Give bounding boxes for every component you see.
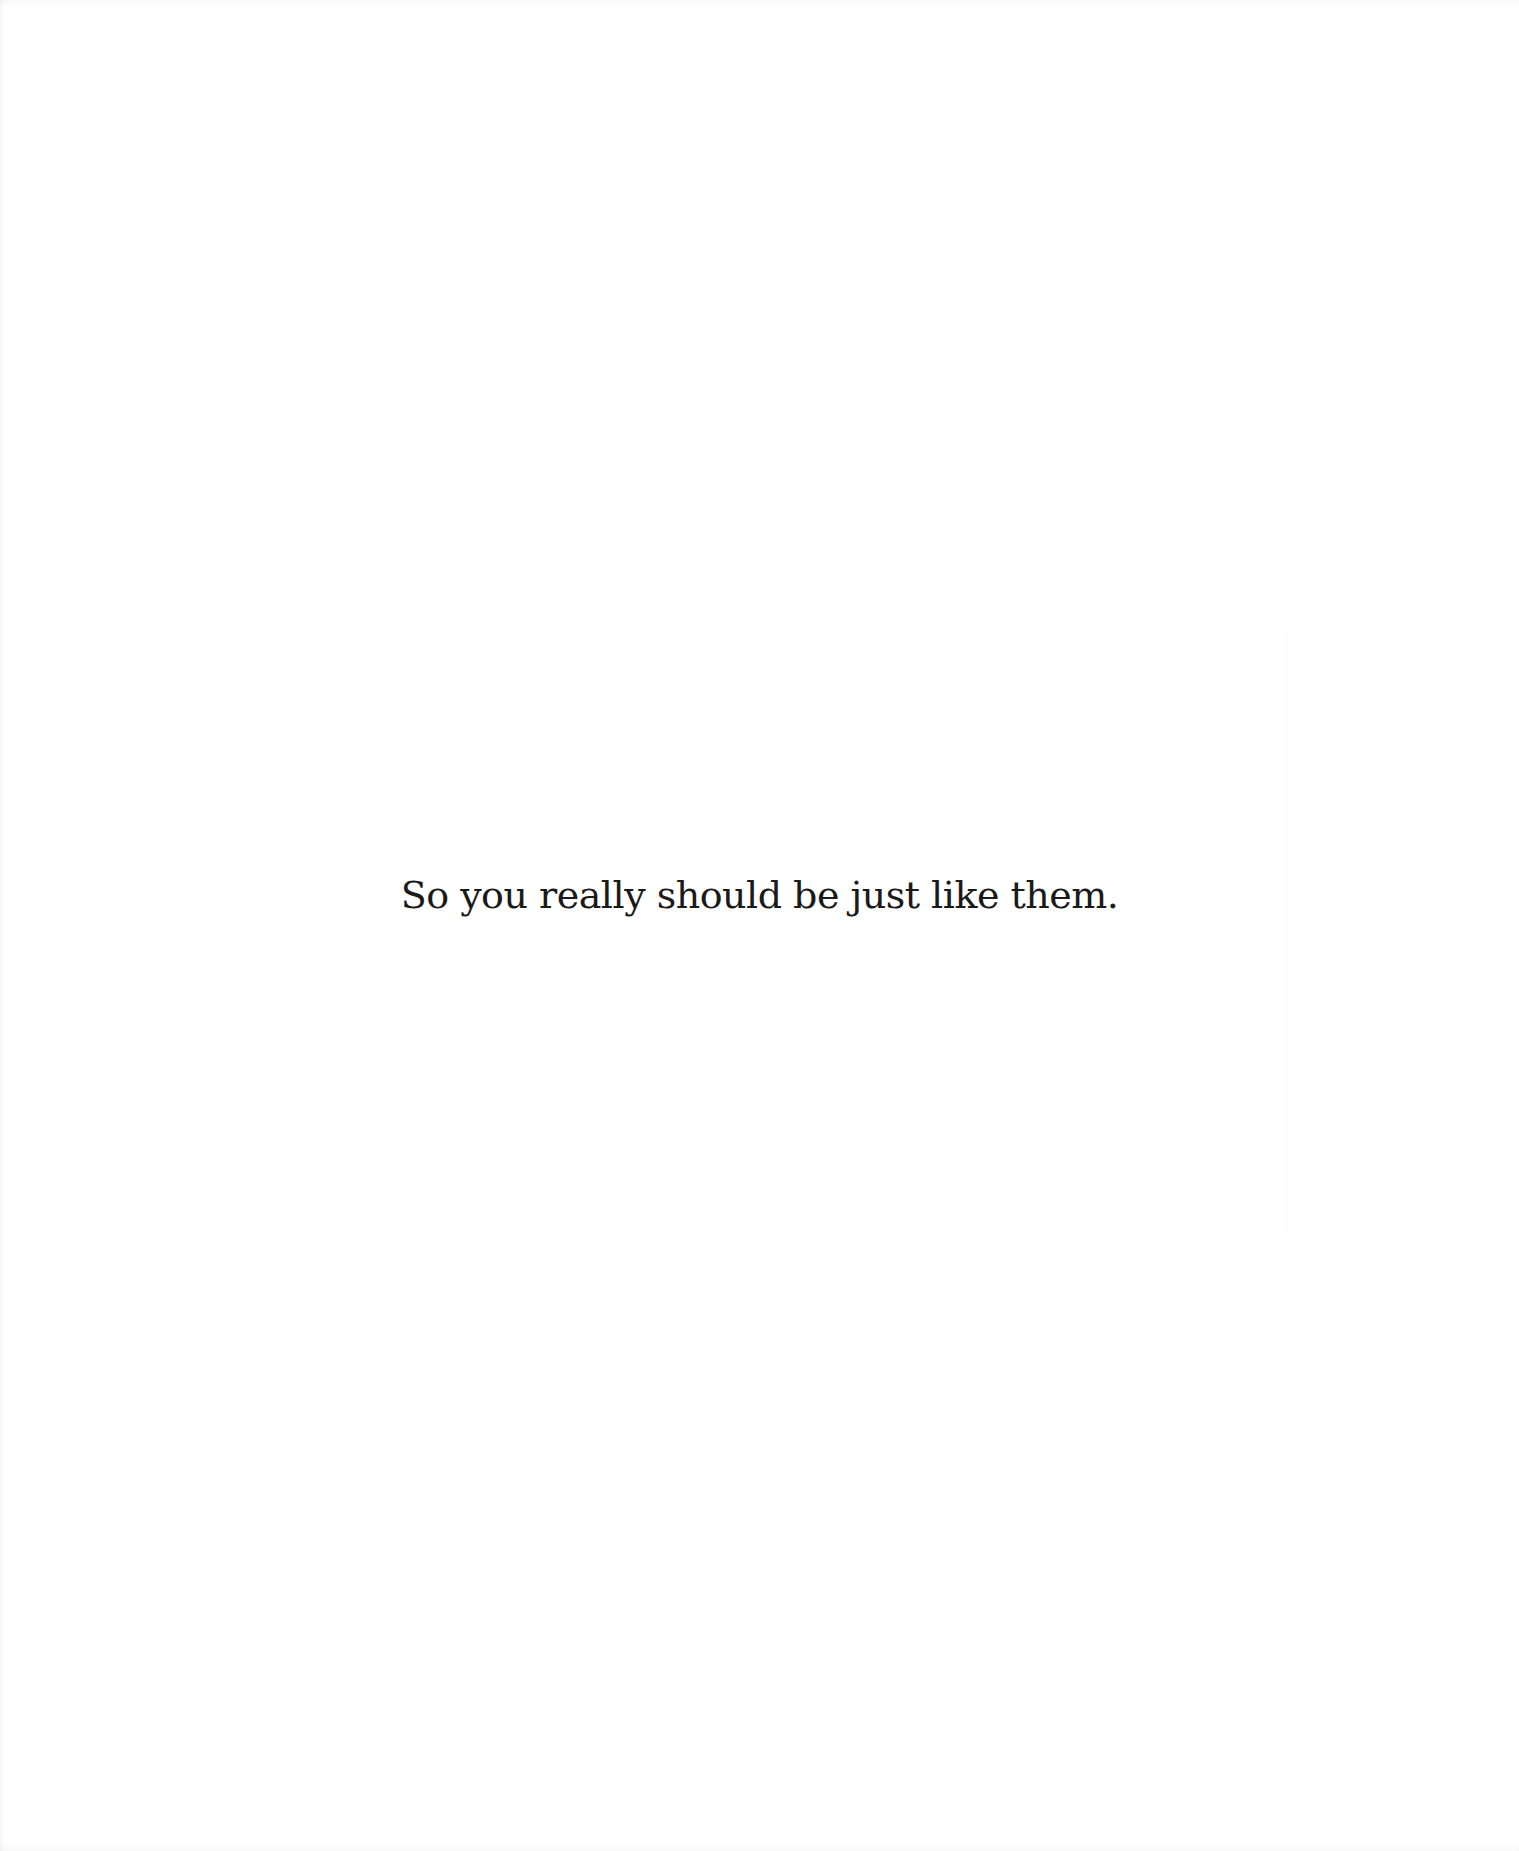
scan-artifact-line <box>1285 630 1286 1230</box>
document-page: So you really should be just like them. <box>0 0 1519 1851</box>
page-text-line: So you really should be just like them. <box>0 867 1519 923</box>
